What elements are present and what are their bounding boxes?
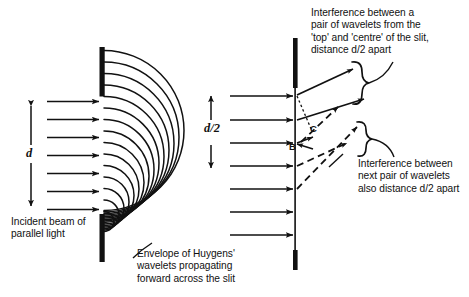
right-diffracted-ray-top bbox=[297, 69, 353, 95]
right-brace-lower-pair bbox=[357, 122, 372, 156]
caption-top-right: Interference between a pair of wavelets … bbox=[311, 7, 463, 57]
right-brace-upper-pair bbox=[352, 62, 369, 104]
right-incident-rays bbox=[230, 96, 293, 235]
right-barrier-lower bbox=[293, 250, 298, 270]
caption-envelope: Envelope of Huygens' wavelets propagatin… bbox=[137, 248, 273, 285]
right-leader-top bbox=[369, 62, 393, 83]
dimension-label-d: d bbox=[26, 146, 32, 161]
figure-canvas: Interference between a pair of wavelets … bbox=[0, 0, 469, 297]
point-label-c: C bbox=[310, 123, 317, 134]
right-caption-leader-dash bbox=[329, 154, 343, 167]
right-diffracted-ray-b bbox=[297, 99, 364, 120]
right-leader-bottom bbox=[372, 139, 394, 157]
left-huygens-wavelets bbox=[104, 51, 184, 232]
right-barrier-upper bbox=[293, 38, 298, 88]
point-label-b: B bbox=[289, 141, 296, 152]
right-barrier-aperture-line bbox=[294, 88, 296, 250]
caption-incident-beam: Incident beam of parallel light bbox=[11, 216, 123, 241]
dimension-label-d-half: d/2 bbox=[204, 121, 220, 136]
caption-bottom-right: Interference between next pair of wavele… bbox=[358, 158, 469, 195]
left-incident-rays bbox=[47, 102, 99, 210]
left-barrier-upper bbox=[100, 47, 105, 97]
right-construction-arrow-b2 bbox=[297, 144, 313, 149]
right-diffracted-ray-lower bbox=[297, 127, 357, 189]
